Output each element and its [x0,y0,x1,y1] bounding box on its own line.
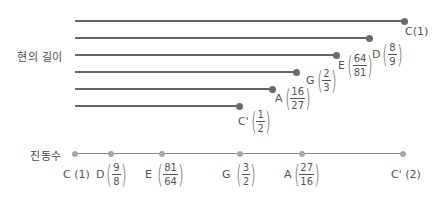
frequency-label-d: D ( 98 ) [96,162,128,187]
string-label-c: C(1) [405,25,428,38]
string-line-c-prime [75,105,239,107]
frequency-label-e: E ( 8164 ) [145,162,186,187]
string-line-d [75,37,369,39]
string-length-label: 현의 길이 [17,48,63,64]
frequency-label-c: C (1) [63,168,90,181]
string-line-a [75,88,272,90]
frequency-dot-g [237,151,243,157]
fraction: 32 [242,162,250,187]
frequency-dot-c [72,151,78,157]
fraction: 1627 [290,86,305,111]
string-end-dot-c [401,18,408,25]
frequency-label-g: G ( 32 ) [222,162,258,187]
frequency-label-c-prime: C' (2) [391,168,421,181]
frequency-dot-a [299,151,305,157]
fraction: 8164 [163,162,178,187]
string-label-a: A ( 1627 ) [275,86,313,111]
string-label-d: D ( 89 ) [372,42,404,67]
string-line-e [75,54,336,56]
fraction: 98 [112,162,120,187]
fraction: 23 [322,68,330,93]
string-end-dot-d [366,35,373,42]
string-end-dot-g [293,69,300,76]
fraction: 6481 [353,53,368,78]
frequency-dot-e [159,151,165,157]
string-line-c [75,20,404,22]
string-label-c-prime: C' ( 12 ) [238,109,273,134]
frequency-label-a: A ( 2716 ) [284,162,322,187]
fraction: 89 [388,42,396,67]
fraction: 2716 [299,162,314,187]
string-line-g [75,71,296,73]
fraction: 12 [256,109,264,134]
frequency-dot-d [108,151,114,157]
frequency-label: 진동수 [30,147,62,163]
frequency-dot-c-prime [400,151,406,157]
string-label-e: E ( 6481 ) [338,53,375,78]
